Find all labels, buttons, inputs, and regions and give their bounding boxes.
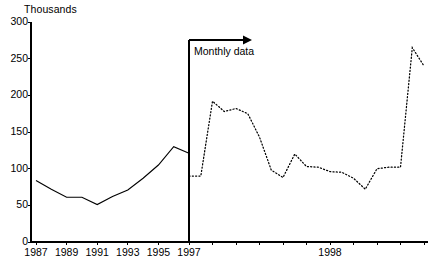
chart-plot: [0, 0, 434, 268]
monthly-data-annotation: Monthly data: [194, 45, 254, 57]
y-axis-tick-label: 150: [0, 125, 28, 137]
x-axis-tick-label: 1989: [55, 246, 78, 258]
x-axis-tick-label: 1995: [147, 246, 170, 258]
y-axis-tick-label: 50: [0, 198, 28, 210]
x-axis-tick-label: 1998: [318, 246, 341, 258]
y-axis-tick-label: 300: [0, 15, 28, 27]
x-axis-tick-label: 1997: [177, 246, 200, 258]
chart-series-group: [36, 48, 424, 205]
x-axis-tick-label: 1987: [24, 246, 47, 258]
y-axis-tick-label: 100: [0, 162, 28, 174]
monthly-data-line: [189, 48, 424, 190]
y-axis-unit-label: Thousands: [24, 3, 77, 15]
monthly-data-arrow-head: [243, 36, 252, 45]
x-axis-tick-label: 1993: [116, 246, 139, 258]
annual-data-line: [36, 147, 189, 205]
y-axis-tick-label: 250: [0, 52, 28, 64]
x-axis-tick-label: 1991: [86, 246, 109, 258]
chart-container: Thousands 050100150200250300 19871989199…: [0, 0, 434, 268]
y-axis-tick-label: 200: [0, 88, 28, 100]
chart-annotations: [189, 36, 252, 45]
